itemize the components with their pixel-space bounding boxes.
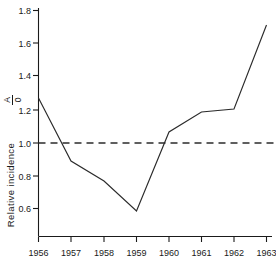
y-axis-title: Relative incidence xyxy=(5,143,16,227)
x-tick-label-1956: 1956 xyxy=(28,248,48,258)
x-tick-label-1958: 1958 xyxy=(94,248,114,258)
y-axis-fraction-numerator: A xyxy=(2,97,12,103)
x-tick-label-1963: 1963 xyxy=(256,248,276,258)
relative-incidence-line-chart: 1.8 1.6 1.4 1.2 1.0 0.8 0.6 1956 1957 19… xyxy=(0,0,276,263)
y-tick-label-1-8: 1.8 xyxy=(18,6,31,16)
x-tick-label-1962: 1962 xyxy=(224,248,244,258)
chart-container: 1.8 1.6 1.4 1.2 1.0 0.8 0.6 1956 1957 19… xyxy=(0,0,276,263)
x-tick-label-1960: 1960 xyxy=(159,248,179,258)
x-tick-label-1959: 1959 xyxy=(126,248,146,258)
x-tick-label-1961: 1961 xyxy=(191,248,211,258)
x-tick-label-1957: 1957 xyxy=(61,248,81,258)
chart-background xyxy=(0,0,276,263)
y-axis-fraction-denominator: 0 xyxy=(13,97,23,102)
y-tick-label-1-2: 1.2 xyxy=(18,106,31,116)
y-tick-label-1-4: 1.4 xyxy=(18,71,31,81)
y-tick-label-0-8: 0.8 xyxy=(18,172,31,182)
y-tick-label-1-6: 1.6 xyxy=(18,39,31,49)
y-tick-label-0-6: 0.6 xyxy=(18,204,31,214)
y-tick-label-1-0: 1.0 xyxy=(18,139,31,149)
